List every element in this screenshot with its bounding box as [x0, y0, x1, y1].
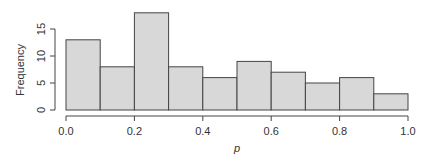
- x-tick-label: 0.0: [58, 125, 73, 137]
- x-tick-label: 0.8: [332, 125, 347, 137]
- histogram-bar: [203, 78, 237, 110]
- histogram-chart: 051015 0.00.20.40.60.81.0 Frequency p: [0, 0, 428, 160]
- x-tick-label: 1.0: [400, 125, 415, 137]
- x-axis-title: p: [233, 142, 240, 154]
- y-tick-label: 10: [35, 50, 47, 62]
- y-tick-label: 0: [35, 107, 47, 113]
- histogram-bar: [100, 67, 134, 110]
- histogram-bar: [340, 78, 374, 110]
- bars-group: [66, 13, 408, 110]
- x-tick-label: 0.4: [195, 125, 210, 137]
- histogram-bar: [271, 72, 305, 110]
- histogram-bar: [374, 94, 408, 110]
- x-tick-label: 0.6: [264, 125, 279, 137]
- y-tick-label: 5: [35, 80, 47, 86]
- histogram-bar: [134, 13, 168, 110]
- histogram-bar: [237, 61, 271, 110]
- x-axis: 0.00.20.40.60.81.0: [58, 116, 415, 137]
- y-axis-title: Frequency: [14, 44, 26, 96]
- x-tick-label: 0.2: [127, 125, 142, 137]
- histogram-bar: [169, 67, 203, 110]
- histogram-bar: [66, 40, 100, 110]
- y-tick-label: 15: [35, 23, 47, 35]
- histogram-bar: [305, 83, 339, 110]
- y-axis: 051015: [35, 23, 55, 113]
